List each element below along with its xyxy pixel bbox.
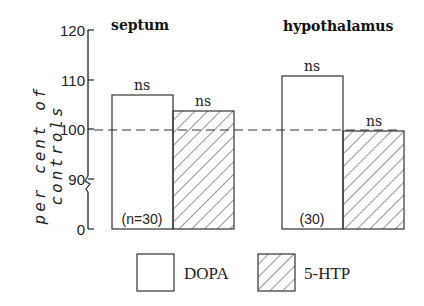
bar-septum-5htp [173, 111, 234, 229]
panel-title-hypothalamus: hypothalamus [283, 18, 394, 34]
sig-hypothalamus-dopa: ns [304, 58, 320, 74]
legend-label-dopa: DOPA [184, 264, 229, 283]
legend-swatch-5htp [258, 254, 295, 291]
n-label-septum: (n=30) [122, 211, 163, 227]
panel-title-septum: septum [111, 17, 169, 33]
legend: DOPA 5-HTP [137, 254, 350, 291]
bar-hypothalamus-5htp [343, 131, 404, 229]
y-tick-100: 100 [60, 121, 85, 138]
sig-hypothalamus-5htp: ns [366, 113, 382, 129]
sig-septum-5htp: ns [195, 93, 211, 109]
legend-swatch-dopa [137, 254, 174, 291]
bar-septum-dopa [112, 95, 173, 229]
svg-text:controls: controls [47, 104, 66, 205]
y-tick-90: 90 [68, 171, 85, 188]
legend-label-5htp: 5-HTP [304, 264, 350, 283]
n-label-hypothalamus: (30) [300, 211, 325, 227]
bar-hypothalamus-dopa [282, 76, 343, 229]
chart-canvas: per cent of controls 120 110 100 90 0 se… [0, 0, 424, 306]
sig-septum-dopa: ns [134, 77, 150, 93]
y-axis-label: per cent of controls [30, 86, 66, 226]
y-tick-120: 120 [60, 22, 85, 39]
y-tick-0: 0 [77, 221, 85, 238]
y-tick-110: 110 [61, 72, 85, 89]
